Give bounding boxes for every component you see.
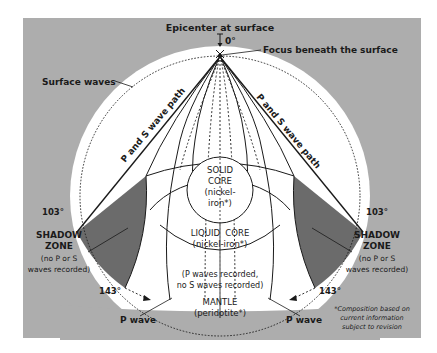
svg-text:(nickel-iron*): (nickel-iron*) [193,239,248,249]
svg-text:(peridotite*): (peridotite*) [194,308,246,318]
svg-text:(P waves recorded,: (P waves recorded, [182,270,258,279]
svg-text:no S waves recorded): no S waves recorded) [177,281,264,290]
svg-text:ZONE: ZONE [45,241,73,251]
svg-text:ZONE: ZONE [363,241,391,251]
svg-text:waves recorded): waves recorded) [346,265,408,274]
svg-text:LIQUID CORE: LIQUID CORE [191,228,250,238]
svg-text:*Composition based on: *Composition based on [334,305,410,313]
svg-text:(nickel-: (nickel- [204,187,235,197]
svg-text:SOLID: SOLID [207,165,233,175]
p-wave-left-label: P wave [120,315,156,325]
svg-text:(no P or S: (no P or S [41,254,78,263]
earthquake-wave-diagram: Epicenter at surface 0° Focus beneath th… [0,0,437,353]
surface-waves-label: Surface waves [42,77,116,87]
svg-text:subject to revision: subject to revision [342,323,402,331]
focus-dot [218,54,222,58]
svg-text:waves recorded): waves recorded) [28,265,90,274]
focus-label: Focus beneath the surface [263,45,398,55]
svg-text:current information: current information [340,314,403,322]
solid-core-label: SOLID CORE (nickel- iron*) [204,165,235,208]
svg-text:103°: 103° [42,207,64,217]
p-wave-right-label: P wave [286,315,322,325]
svg-text:SHADOW: SHADOW [354,230,400,240]
svg-text:CORE: CORE [208,176,232,186]
svg-text:103°: 103° [366,207,388,217]
epicenter-label: Epicenter at surface [166,22,274,33]
svg-text:143°: 143° [99,286,121,296]
svg-text:iron*): iron*) [208,198,232,208]
svg-text:SHADOW: SHADOW [36,230,82,240]
svg-text:(no P or S: (no P or S [359,254,396,263]
liquid-core-label: LIQUID CORE (nickel-iron*) [191,228,250,249]
svg-text:143°: 143° [319,286,341,296]
zero-degree-label: 0° [225,36,236,46]
footnote: *Composition based on current informatio… [334,305,410,331]
svg-text:MANTLE: MANTLE [203,297,238,307]
